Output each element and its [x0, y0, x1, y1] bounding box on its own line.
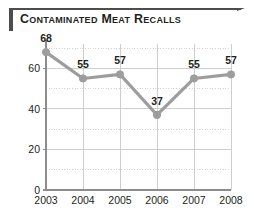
x-axis-tick-label: 2003 — [34, 194, 57, 206]
data-point-marker — [153, 111, 160, 118]
x-axis-tick-label: 2004 — [71, 194, 94, 206]
chart-figure: Contaminated Meat Recalls 02040602003200… — [0, 0, 262, 217]
plot-area: 0204060200320042005200620072008685557375… — [0, 0, 262, 217]
x-axis-tick-label: 2008 — [219, 194, 242, 206]
data-point-marker — [116, 71, 123, 78]
data-point-label: 55 — [77, 58, 89, 70]
data-point-marker — [42, 49, 49, 56]
x-axis-tick-label: 2006 — [145, 194, 168, 206]
data-point-label: 55 — [188, 58, 200, 70]
data-point-label: 57 — [114, 54, 126, 66]
data-point-label: 37 — [151, 95, 163, 107]
x-axis-tick-label: 2007 — [182, 194, 205, 206]
y-axis-tick-label: 40 — [12, 103, 40, 115]
data-point-label: 57 — [225, 54, 237, 66]
data-point-marker — [227, 71, 234, 78]
data-point-marker — [79, 75, 86, 82]
data-point-marker — [190, 75, 197, 82]
data-point-label: 68 — [40, 32, 52, 44]
y-axis-tick-label: 20 — [12, 143, 40, 155]
x-axis-tick-label: 2005 — [108, 194, 131, 206]
y-axis-tick-label: 60 — [12, 62, 40, 74]
